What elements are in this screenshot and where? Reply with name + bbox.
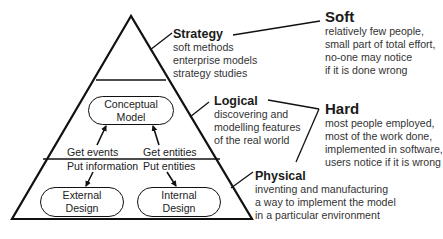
- conceptual-model-box: Conceptual Model: [88, 96, 174, 125]
- arrow-put-entities: [167, 172, 176, 186]
- label-get-events: Get events: [67, 146, 118, 159]
- arrow-put-information: [86, 172, 93, 186]
- category-soft-line: no-one may notice: [325, 51, 436, 64]
- internal-design-line2: Design: [163, 202, 196, 215]
- external-design-line2: Design: [66, 202, 99, 215]
- leader-logical: [190, 102, 209, 117]
- level-logical-title: Logical: [214, 94, 301, 108]
- level-physical-line: inventing and manufacturing: [255, 183, 396, 196]
- level-strategy-line: enterprise models: [173, 54, 257, 67]
- level-logical-line: discovering and: [214, 108, 301, 121]
- level-physical-title: Physical: [255, 169, 396, 183]
- external-design-box: External Design: [40, 187, 124, 217]
- level-physical-line: a way to implement the model: [255, 196, 396, 209]
- level-strategy-line: strategy studies: [173, 67, 257, 80]
- label-put-entities: Put entities: [143, 160, 195, 173]
- level-logical: Logical discovering and modelling featur…: [214, 94, 301, 147]
- level-physical-line: in a particular environment: [255, 209, 396, 222]
- arrow-get-entities: [153, 126, 159, 145]
- category-hard-line: implemented in software,: [325, 143, 443, 156]
- label-get-entities: Get entities: [143, 146, 197, 159]
- category-soft-line: if it is done wrong: [325, 64, 436, 77]
- external-design-line1: External: [63, 189, 102, 202]
- category-soft-title: Soft: [325, 8, 436, 25]
- level-logical-line: of the real world: [214, 134, 301, 147]
- category-hard-line: most people employed,: [325, 117, 443, 130]
- level-logical-line: modelling features: [214, 121, 301, 134]
- category-soft-line: relatively few people,: [325, 25, 436, 38]
- level-physical: Physical inventing and manufacturing a w…: [255, 169, 396, 222]
- category-soft-line: small part of total effort,: [325, 38, 436, 51]
- arrow-get-events: [97, 126, 106, 145]
- category-hard: Hard most people employed, most of the w…: [325, 100, 443, 169]
- leader-strategy: [150, 33, 172, 50]
- label-put-information: Put information: [67, 160, 138, 173]
- category-hard-title: Hard: [325, 100, 443, 117]
- internal-design-line1: Internal: [161, 189, 196, 202]
- internal-design-box: Internal Design: [137, 187, 221, 217]
- category-hard-line: users notice if it is wrong: [325, 156, 443, 169]
- conceptual-model-line2: Model: [117, 111, 146, 124]
- category-soft: Soft relatively few people, small part o…: [325, 8, 436, 77]
- leader-physical: [231, 172, 253, 188]
- category-hard-line: most of the work done,: [325, 130, 443, 143]
- level-strategy-title: Strategy: [173, 27, 257, 41]
- conceptual-model-line1: Conceptual: [104, 98, 158, 111]
- level-strategy-line: soft methods: [173, 41, 257, 54]
- level-strategy: Strategy soft methods enterprise models …: [173, 27, 257, 80]
